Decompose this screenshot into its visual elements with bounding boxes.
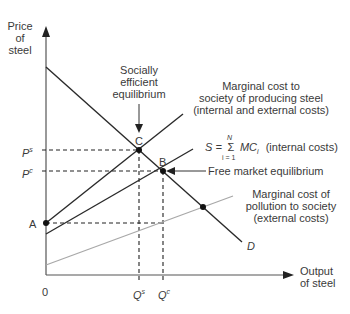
formula-lhs: S = (205, 141, 222, 153)
sigma-block: N Σ i = 1 (225, 141, 237, 153)
x-axis-arrow-icon (283, 271, 294, 279)
se-line-2: efficient (106, 76, 172, 88)
supply-curve (46, 149, 193, 234)
formula-sub: i (257, 148, 259, 155)
qc-sup: c (167, 288, 171, 295)
formula-term: MC (240, 141, 257, 153)
qs-main: Q (133, 289, 142, 301)
y-axis-arrow-icon (42, 26, 50, 37)
point-c (136, 147, 142, 153)
x-label-line-2: of steel (300, 277, 335, 289)
y-label-line-1: Price (2, 20, 38, 32)
origin-label: 0 (42, 286, 48, 298)
supply-formula: S = N Σ i = 1 MCi (internal costs) (205, 141, 338, 158)
pc-line-1: Marginal cost of (236, 188, 346, 200)
x-axis-label: Output of steel (300, 265, 335, 289)
demand-label: D (247, 240, 255, 252)
pc-label: Pc (22, 165, 33, 180)
point-a-label: A (29, 218, 36, 230)
smc-line-3: (internal and external costs) (186, 104, 336, 116)
smc-line-2: society of producing steel (186, 92, 336, 104)
pc-sup: c (29, 167, 33, 174)
point-external-demand (200, 204, 206, 210)
x-label-line-1: Output (300, 265, 335, 277)
y-axis-label: Price of steel (2, 20, 38, 56)
sigma-lower: i = 1 (222, 152, 235, 164)
point-b (160, 168, 166, 174)
qs-label: Qs (133, 286, 145, 301)
efficient-arrow-icon (135, 124, 143, 133)
smc-line-1: Marginal cost to (186, 80, 336, 92)
se-line-1: Socially (106, 64, 172, 76)
ps-label: Ps (22, 144, 33, 159)
pc-line-3: (external costs) (236, 212, 346, 224)
free-market-arrow-icon (166, 167, 175, 175)
ps-sup: s (29, 146, 33, 153)
qc-main: Q (158, 289, 167, 301)
socially-efficient-label: Socially efficient equilibrium (106, 64, 172, 100)
social-mc-label: Marginal cost to society of producing st… (186, 80, 336, 116)
point-b-label: B (159, 156, 166, 168)
qc-label: Qc (158, 286, 170, 301)
free-market-label: Free market equilibrium (208, 165, 324, 177)
point-c-label: C (135, 135, 143, 147)
pc-line-2: pollution to society (236, 200, 346, 212)
pollution-cost-label: Marginal cost of pollution to society (e… (236, 188, 346, 224)
sigma-upper: N (227, 132, 232, 144)
y-label-line-3: steel (2, 44, 38, 56)
point-a (43, 220, 49, 226)
qs-sup: s (142, 288, 146, 295)
formula-suffix: (internal costs) (266, 141, 338, 153)
y-label-line-2: of (2, 32, 38, 44)
se-line-3: equilibrium (106, 88, 172, 100)
